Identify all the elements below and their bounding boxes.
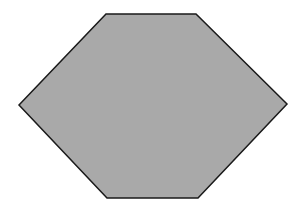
hexagon-shape <box>19 14 287 198</box>
hexagon-diagram <box>0 0 305 213</box>
